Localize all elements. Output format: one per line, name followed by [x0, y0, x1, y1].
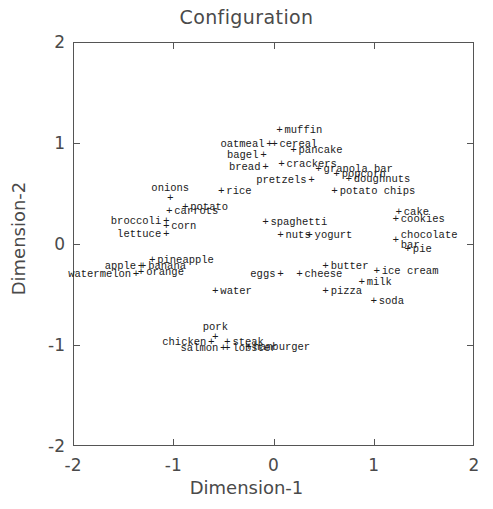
plot-title: Configuration	[0, 6, 493, 28]
data-point-marker: +	[333, 169, 340, 180]
data-point-label: corn	[171, 221, 196, 231]
data-point-marker: +	[322, 286, 329, 297]
data-point-marker: +	[278, 159, 285, 170]
data-point-label: potato chips	[340, 186, 416, 196]
data-point-label: lobster	[232, 343, 276, 353]
data-point-marker: +	[392, 213, 399, 224]
y-axis-tick-label: -2	[27, 436, 65, 456]
data-point-marker: +	[220, 343, 227, 354]
data-point-label: pizza	[331, 286, 363, 296]
data-point-label: onions	[151, 183, 189, 193]
data-point-label: muffin	[285, 125, 323, 135]
data-point-label: water	[220, 286, 252, 296]
x-axis-tick	[274, 439, 275, 446]
data-point-label: spaghetti	[270, 217, 327, 227]
x-axis-tick-label: -2	[65, 455, 82, 475]
data-point-label: bread	[229, 162, 261, 172]
y-axis-tick-label: 0	[27, 234, 65, 254]
data-point-marker: +	[290, 145, 297, 156]
data-point-marker: +	[308, 175, 315, 186]
x-axis-tick-label: 1	[368, 455, 379, 475]
y-axis-tick-label: -1	[27, 335, 65, 355]
data-point-label: pancake	[299, 145, 343, 155]
x-axis-tick-label: -1	[165, 455, 182, 475]
data-point-marker: +	[370, 295, 377, 306]
data-point-marker: +	[405, 244, 412, 255]
data-point-label: watermelon	[68, 269, 131, 279]
y-axis-tick-right	[467, 345, 474, 346]
data-point-label: cookies	[401, 214, 445, 224]
data-point-label: yogurt	[315, 230, 353, 240]
data-point-label: milk	[367, 277, 392, 287]
data-point-marker: +	[167, 192, 174, 203]
y-axis-tick-right	[467, 143, 474, 144]
y-axis-tick-label: 2	[27, 32, 65, 52]
data-point-label: broccoli	[111, 216, 161, 226]
data-point-marker: +	[218, 186, 225, 197]
x-axis-tick-top	[274, 42, 275, 49]
y-axis-tick	[73, 244, 80, 245]
data-point-label: ice cream	[382, 266, 439, 276]
data-point-marker: +	[345, 174, 352, 185]
data-point-marker: +	[296, 269, 303, 280]
data-point-marker: +	[331, 186, 338, 197]
data-point-marker: +	[163, 228, 170, 239]
data-point-label: pork	[203, 322, 228, 332]
data-point-label: orange	[146, 267, 184, 277]
data-point-label: eggs	[250, 269, 275, 279]
data-point-label: carrots	[174, 206, 218, 216]
data-point-label: doughnuts	[354, 174, 411, 184]
data-point-label: oatmeal	[220, 139, 264, 149]
data-point-label: cheese	[305, 269, 343, 279]
data-point-label: pie	[413, 244, 432, 254]
data-point-label: soda	[379, 296, 404, 306]
data-point-marker: +	[276, 124, 283, 135]
data-point-marker: +	[262, 216, 269, 227]
y-axis-label: Dimension-2	[8, 159, 29, 319]
data-point-marker: +	[277, 269, 284, 280]
data-point-marker: +	[315, 164, 322, 175]
data-point-marker: +	[212, 286, 219, 297]
data-point-marker: +	[373, 266, 380, 277]
data-point-label: salmon	[181, 343, 219, 353]
data-point-label: rice	[226, 186, 251, 196]
data-point-marker: +	[266, 139, 273, 150]
data-point-marker: +	[260, 150, 267, 161]
x-axis-label: Dimension-1	[0, 477, 493, 498]
configuration-scatter-plot: Configuration -2-1012-2-1012 +muffin+cer…	[0, 0, 493, 509]
x-axis-tick-label: 0	[268, 455, 279, 475]
data-point-marker: +	[306, 229, 313, 240]
data-point-marker: +	[392, 234, 399, 245]
data-point-marker: +	[262, 162, 269, 173]
x-axis-tick	[173, 439, 174, 446]
y-axis-tick	[73, 143, 80, 144]
x-axis-tick-top	[374, 42, 375, 49]
data-point-label: bagel	[227, 150, 259, 160]
data-point-label: lettuce	[117, 229, 161, 239]
data-point-label: pretzels	[256, 175, 306, 185]
x-axis-tick	[374, 439, 375, 446]
y-axis-tick-right	[467, 244, 474, 245]
x-axis-tick-label: 2	[469, 455, 480, 475]
data-point-marker: +	[133, 269, 140, 280]
y-axis-tick-label: 1	[27, 133, 65, 153]
data-point-marker: +	[277, 229, 284, 240]
y-axis-tick	[73, 345, 80, 346]
x-axis-tick-top	[173, 42, 174, 49]
